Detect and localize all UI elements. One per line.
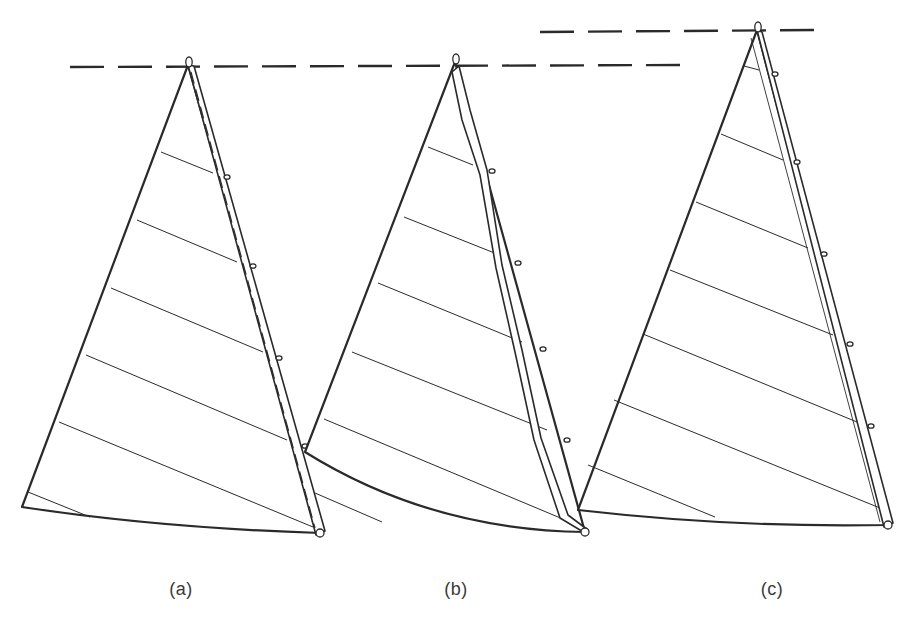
luff-hank-ring (772, 72, 778, 76)
sail-body (578, 30, 888, 525)
luff-hank-ring (847, 342, 853, 346)
luff-hank-ring (515, 261, 521, 265)
caption-c: (c) (761, 579, 784, 600)
luff-hank-ring (821, 252, 827, 256)
head-ring (186, 57, 192, 67)
sail-drawing-canvas (0, 0, 913, 618)
luff-hank-ring (868, 424, 874, 428)
luff-hank-ring (794, 160, 800, 164)
caption-a: (a) (169, 579, 193, 600)
luff-hank-ring (564, 438, 570, 442)
luff-hank-ring (489, 169, 495, 173)
head-ring (453, 54, 459, 64)
luff-hank-ring (540, 347, 546, 351)
luff-hank-ring (250, 264, 256, 268)
sail-b (305, 54, 589, 536)
masthead-line-1 (540, 30, 823, 32)
sail-body (22, 65, 320, 533)
sail-seam (315, 493, 382, 522)
masthead-reference-lines (70, 30, 823, 67)
caption-b: (b) (444, 579, 468, 600)
clew-ring (884, 521, 892, 529)
head-ring (755, 22, 761, 32)
sail-c (578, 22, 893, 529)
luff-hank-ring (276, 356, 282, 360)
luff-hank-ring (224, 175, 230, 179)
sail-a (22, 57, 325, 537)
clew-ring (316, 529, 324, 537)
sail-diagram: (a) (b) (c) (0, 0, 913, 618)
masthead-line-0 (70, 65, 685, 67)
clew-ring (581, 528, 589, 536)
